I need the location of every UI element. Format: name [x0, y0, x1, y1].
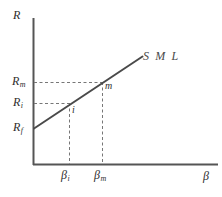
x-tick-sub-beta-m: m [100, 174, 106, 183]
sml-line [34, 57, 143, 129]
sml-figure: R β Rm Ri Rf βi βm i m S M L [0, 0, 222, 197]
x-tick-label-beta-m: βm [94, 169, 106, 181]
y-tick-label-Rm: Rm [12, 75, 25, 87]
x-axis-label: β [203, 170, 209, 182]
y-tick-base-Rm: R [12, 74, 19, 88]
sml-plot-canvas [0, 0, 222, 197]
y-tick-base-Rf: R [13, 120, 20, 134]
y-tick-base-Ri: R [13, 95, 20, 109]
y-tick-sub-Rf: f [21, 126, 23, 135]
point-label-m: m [105, 81, 112, 91]
y-tick-label-Ri: Ri [13, 96, 23, 108]
y-tick-label-Rf: Rf [13, 121, 23, 133]
y-axis-label: R [13, 9, 20, 21]
sml-series-label: S M L [143, 50, 180, 62]
x-tick-sub-beta-i: i [67, 174, 69, 183]
y-tick-sub-Ri: i [21, 101, 23, 110]
y-tick-sub-Rm: m [20, 80, 26, 89]
x-tick-label-beta-i: βi [61, 169, 69, 181]
point-label-i: i [72, 105, 75, 115]
